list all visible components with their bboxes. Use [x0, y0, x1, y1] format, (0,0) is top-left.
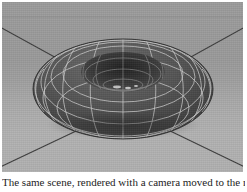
contact-shadow	[48, 112, 198, 138]
torus-object	[32, 36, 214, 142]
3d-render-viewport	[2, 2, 243, 172]
figure-caption: The same scene, rendered with a camera m…	[2, 176, 245, 192]
figure-panel: The same scene, rendered with a camera m…	[0, 0, 247, 192]
